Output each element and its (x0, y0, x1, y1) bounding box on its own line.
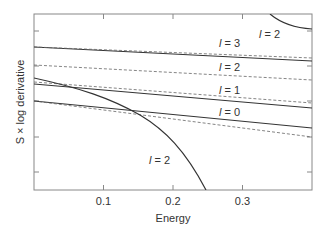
x-axis-label: Energy (156, 212, 191, 224)
curve-l3-dashed (34, 47, 312, 58)
curve-l3-solid (34, 47, 312, 61)
label-l2-lower: l = 2 (149, 154, 170, 166)
y-ticks (34, 31, 312, 172)
label-l3: l = 3 (219, 37, 240, 49)
chart: l = 3 l = 2 l = 1 l = 0 l = 2 l = 2 0.1 … (0, 0, 328, 230)
label-l1: l = 1 (219, 84, 240, 96)
curve-l0-dashed (34, 101, 312, 137)
plot-frame (34, 14, 312, 190)
curve-l0-solid (34, 101, 312, 128)
curve-l2-upper (270, 14, 312, 29)
curve-l2-falling (34, 78, 206, 190)
curve-l1-solid (34, 84, 312, 108)
x-tick-label-0.1: 0.1 (96, 195, 111, 207)
curve-l2-dashed (34, 65, 312, 80)
y-axis-label: S × log derivative (14, 60, 26, 145)
label-l2: l = 2 (219, 61, 240, 73)
label-l2-upper: l = 2 (259, 28, 280, 40)
label-l0: l = 0 (219, 106, 240, 118)
x-tick-label-0.2: 0.2 (165, 195, 180, 207)
x-tick-label-0.3: 0.3 (235, 195, 250, 207)
curve-l1-dashed (34, 82, 312, 103)
